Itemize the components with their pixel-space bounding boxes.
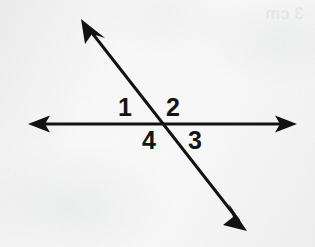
angle-label-3: 3 bbox=[188, 128, 202, 153]
diagonal-line-lower-arrowhead bbox=[223, 204, 247, 231]
angle-label-1: 1 bbox=[118, 95, 132, 120]
diagonal-line-upper-arrowhead bbox=[81, 19, 105, 44]
angle-diagram-figure: 3 cm 1 2 4 3 bbox=[0, 0, 315, 247]
angle-label-4: 4 bbox=[142, 128, 156, 153]
diagram-canvas bbox=[0, 0, 315, 247]
angle-label-2: 2 bbox=[166, 95, 180, 120]
